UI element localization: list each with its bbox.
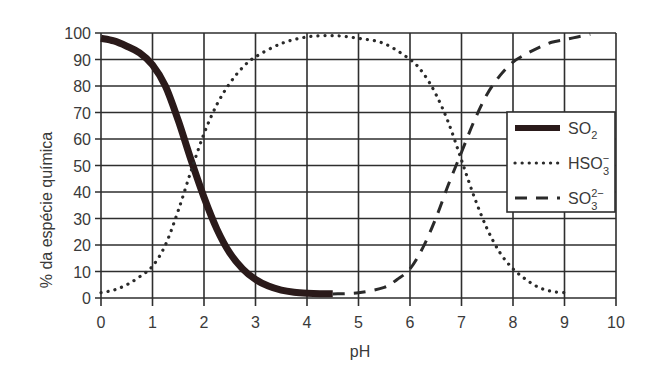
y-tick-label: 100	[64, 25, 91, 42]
y-axis-ticks: 0102030405060708090100	[64, 25, 91, 307]
x-tick-label: 4	[303, 314, 312, 331]
x-axis-ticks: 012345678910	[97, 314, 625, 331]
x-axis-label: pH	[350, 343, 370, 360]
x-tick-label: 0	[97, 314, 106, 331]
x-tick-label: 9	[560, 314, 569, 331]
x-tick-label: 8	[509, 314, 518, 331]
y-tick-label: 80	[73, 78, 91, 95]
x-tick-label: 10	[607, 314, 625, 331]
x-tick-label: 6	[406, 314, 415, 331]
x-tick-label: 7	[457, 314, 466, 331]
y-tick-label: 90	[73, 52, 91, 69]
series-line-hso3-	[101, 36, 565, 293]
y-tick-label: 60	[73, 131, 91, 148]
legend: SO2HSO−3SO2−3	[507, 112, 615, 212]
y-tick-label: 20	[73, 237, 91, 254]
y-tick-label: 40	[73, 184, 91, 201]
species-distribution-chart: 0102030405060708090100 012345678910 % da…	[0, 0, 653, 383]
y-axis-label: % da espécie química	[38, 132, 55, 289]
y-tick-label: 0	[82, 290, 91, 307]
x-tick-label: 1	[148, 314, 157, 331]
y-tick-label: 30	[73, 211, 91, 228]
y-tick-label: 50	[73, 158, 91, 175]
y-tick-label: 70	[73, 105, 91, 122]
x-tick-label: 3	[251, 314, 260, 331]
y-tick-label: 10	[73, 264, 91, 281]
x-tick-label: 2	[200, 314, 209, 331]
x-tick-label: 5	[354, 314, 363, 331]
